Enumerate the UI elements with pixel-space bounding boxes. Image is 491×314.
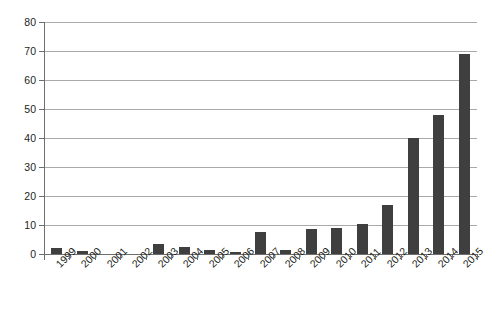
- x-axis-tick: [146, 255, 147, 260]
- bar: [433, 115, 444, 254]
- bar: [459, 54, 470, 254]
- y-axis-tick-label: 40: [12, 133, 36, 144]
- y-axis-tick-label: 60: [12, 75, 36, 86]
- bar: [255, 232, 266, 254]
- x-axis-tick: [401, 255, 402, 260]
- x-axis-tick: [375, 255, 376, 260]
- x-axis-tick: [248, 255, 249, 260]
- y-axis-tick-label: 80: [12, 17, 36, 28]
- x-axis-tick: [299, 255, 300, 260]
- x-axis-tick: [69, 255, 70, 260]
- bar: [306, 229, 317, 254]
- x-axis-tick: [350, 255, 351, 260]
- x-axis-tick: [171, 255, 172, 260]
- x-axis-tick: [426, 255, 427, 260]
- plot-area: [44, 22, 477, 254]
- x-axis-tick: [197, 255, 198, 260]
- y-axis-tick-label: 70: [12, 46, 36, 57]
- x-axis-tick: [273, 255, 274, 260]
- bar: [357, 224, 368, 254]
- y-axis-tick-label: 20: [12, 191, 36, 202]
- x-axis-tick: [324, 255, 325, 260]
- x-axis-tick: [44, 255, 45, 260]
- x-axis-tick: [452, 255, 453, 260]
- x-axis-tick: [222, 255, 223, 260]
- x-axis-tick: [120, 255, 121, 260]
- y-axis-tick-label: 50: [12, 104, 36, 115]
- y-axis-tick-label: 10: [12, 220, 36, 231]
- y-axis-tick-label: 30: [12, 162, 36, 173]
- bar: [408, 138, 419, 254]
- bar-chart: 01020304050607080 1999200020012002200320…: [0, 0, 491, 314]
- bar: [382, 205, 393, 254]
- bar: [331, 228, 342, 254]
- x-axis-tick: [477, 255, 478, 260]
- x-axis-tick: [95, 255, 96, 260]
- y-axis-tick-label: 0: [12, 249, 36, 260]
